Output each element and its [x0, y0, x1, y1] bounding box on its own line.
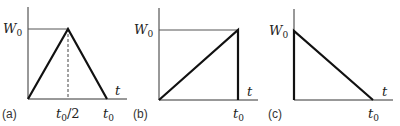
y-label: W0: [3, 21, 22, 38]
y-label: W0: [269, 23, 288, 40]
x-label: t: [382, 84, 388, 99]
x-label: t: [247, 84, 253, 99]
x-label: t: [115, 83, 121, 98]
ramp-down-curve: [294, 31, 373, 100]
y-label: W0: [134, 22, 153, 39]
panel-a: W0 t (a) t0/2 t0: [2, 7, 127, 123]
panel-label: (a): [2, 107, 17, 121]
tick-t0: t0: [368, 106, 379, 123]
panel-b: W0 t (b) t0: [133, 8, 258, 123]
panel-label: (b): [133, 107, 148, 121]
tick-t0: t0: [233, 106, 244, 123]
panel-label: (c): [268, 107, 282, 121]
panel-c: W0 t (c) t0: [268, 9, 393, 123]
figure-canvas: W0 t (a) t0/2 t0 W0 t (b) t0 W0 t (c) t0: [0, 0, 400, 126]
ramp-up-curve: [159, 30, 238, 100]
tick-t0-half: t0/2: [56, 106, 80, 123]
tick-t0: t0: [103, 106, 114, 123]
